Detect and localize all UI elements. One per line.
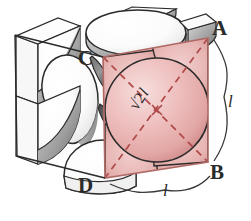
vertex-label-d: D: [78, 175, 93, 196]
vertex-label-a: A: [212, 18, 227, 39]
fcc-unit-cell-figure: A B C D l l √2l: [0, 0, 251, 221]
brace-edge-right: [214, 40, 227, 161]
vertex-label-c: C: [78, 48, 93, 69]
edge-length-label-bottom: l: [163, 182, 168, 199]
edge-length-label-right: l: [228, 93, 233, 110]
vertex-label-b: B: [210, 162, 224, 183]
cell-front-face: [103, 38, 209, 180]
